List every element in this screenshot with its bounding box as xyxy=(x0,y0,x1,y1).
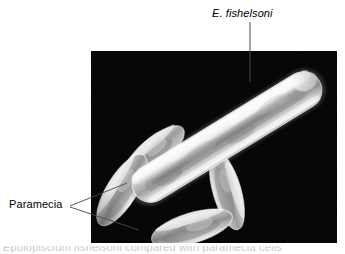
label-e-fishelsoni: E. fishelsoni xyxy=(212,8,273,19)
figure-caption-text: Epulopiscium fishelsoni compared with pa… xyxy=(3,246,282,253)
micrograph-canvas xyxy=(91,51,337,243)
photomicrograph xyxy=(91,51,337,243)
micrograph-grain xyxy=(91,51,337,243)
label-paramecia: Paramecia xyxy=(9,199,62,210)
figure-caption-clipped: Epulopiscium fishelsoni compared with pa… xyxy=(0,246,345,254)
figure-panel: E. fishelsoni Paramecia Epulopiscium fis… xyxy=(0,0,345,254)
